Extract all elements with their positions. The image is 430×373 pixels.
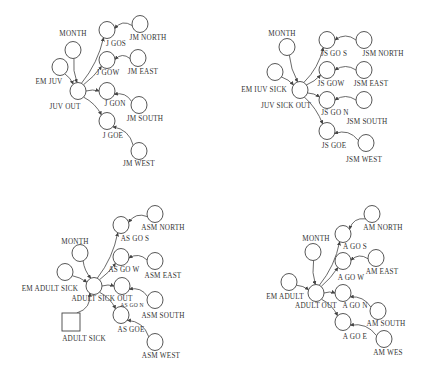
label-juvenile-north: JM NORTH bbox=[130, 34, 167, 42]
node-juvenile-sick-month bbox=[279, 39, 295, 56]
node-juvenile-month bbox=[65, 42, 81, 59]
edge-adult-sick-month-to-out bbox=[83, 261, 91, 278]
label-adult-sick-month: MONTH bbox=[61, 238, 88, 246]
label-juvenile-em: EM JUV bbox=[36, 78, 64, 86]
node-adult-sick-east bbox=[147, 253, 163, 270]
node-juvenile-sick-out bbox=[292, 82, 308, 99]
label-adult-sick-em: EM ADULT SICK bbox=[22, 285, 79, 293]
label-juvenile-sick-south: JSM SOUTH bbox=[347, 118, 388, 126]
node-adult-sick-stock bbox=[62, 313, 80, 331]
node-juvenile-sick-east bbox=[356, 62, 372, 79]
node-adult-sick-north bbox=[147, 206, 163, 223]
node-juvenile-gow bbox=[99, 52, 115, 69]
label-juvenile-month: MONTH bbox=[59, 30, 86, 38]
label-adult-gow: A GO W bbox=[338, 274, 365, 282]
edge-adult-sick-north-to-gos bbox=[129, 215, 148, 222]
label-juvenile-sick-em: EM IUV SICK bbox=[241, 86, 287, 94]
node-juvenile-sick-gon bbox=[319, 92, 335, 109]
node-juvenile-sick-west bbox=[358, 135, 374, 152]
node-juvenile-sick-goe bbox=[319, 123, 335, 140]
edge-juvenile-sick-em-to-out bbox=[281, 77, 293, 85]
node-adult-west bbox=[376, 331, 392, 348]
node-juvenile-sick-em bbox=[267, 64, 283, 81]
edge-juvenile-north-to-gos bbox=[115, 23, 132, 29]
label-adult-gos: A GO S bbox=[343, 243, 367, 251]
label-juvenile-goe: J GOE bbox=[103, 132, 124, 140]
label-adult-out: ADULT OUT bbox=[295, 302, 337, 310]
edge-juvenile-out-to-gon bbox=[86, 90, 99, 91]
node-juvenile-south bbox=[131, 97, 147, 114]
edge-juvenile-out-to-goe bbox=[84, 97, 102, 115]
node-juvenile-east bbox=[130, 50, 146, 67]
node-adult-sick-out bbox=[86, 278, 102, 295]
label-juvenile-sick-out: JUV SICK OUT bbox=[261, 102, 312, 110]
label-juvenile-sick-north: JSM NORTH bbox=[362, 50, 403, 58]
label-adult-sick-gow: AS GO W bbox=[108, 266, 139, 274]
node-juvenile-sick-gow bbox=[319, 62, 335, 79]
node-adult-em bbox=[281, 274, 297, 291]
causal-diagram-svg: MONTHEM JUVJUV OUTJ GOSJ GOWJ GONJ GOEJM… bbox=[0, 0, 430, 373]
edge-adult-month-to-out bbox=[313, 260, 316, 284]
node-juvenile-sick-gos bbox=[319, 32, 335, 49]
edge-adult-out-to-gon bbox=[324, 292, 335, 293]
label-adult-east: AM EAST bbox=[366, 268, 399, 276]
node-adult-sick-gow bbox=[113, 249, 129, 266]
node-adult-south bbox=[370, 303, 386, 320]
label-juvenile-sick-west: JSM WEST bbox=[346, 156, 382, 164]
label-juvenile-west: JM WEST bbox=[123, 160, 155, 168]
label-juvenile-gon: J GON bbox=[104, 100, 126, 108]
node-adult-sick-south bbox=[147, 292, 163, 309]
node-adult-sick-month bbox=[72, 245, 88, 262]
label-juvenile-sick-gos: JS GO S bbox=[321, 50, 347, 58]
node-adult-sick-gos bbox=[113, 217, 129, 234]
edge-juvenile-sick-south-to-gon bbox=[335, 97, 356, 101]
edge-juvenile-sick-out-to-gon bbox=[308, 93, 320, 97]
node-juvenile-goe bbox=[99, 113, 115, 130]
node-juvenile-gos bbox=[99, 22, 115, 39]
label-adult-month: MONTH bbox=[302, 235, 329, 243]
label-adult-west: AM WES bbox=[373, 349, 403, 357]
edge-adult-em-to-out bbox=[296, 285, 308, 290]
node-adult-gow bbox=[335, 253, 351, 270]
node-adult-out bbox=[308, 285, 324, 302]
label-adult-sick-east: ASM EAST bbox=[145, 272, 182, 280]
edge-juvenile-sick-west-to-goe bbox=[335, 132, 359, 141]
label-adult-south: AM SOUTH bbox=[367, 320, 406, 328]
node-adult-sick-em bbox=[57, 264, 73, 281]
node-adult-gos bbox=[335, 226, 351, 243]
label-adult-sick-north: ASM NORTH bbox=[141, 224, 185, 232]
edge-juvenile-sick-north-to-gos bbox=[335, 36, 356, 40]
label-adult-goe: A GO E bbox=[343, 333, 368, 341]
edge-adult-sick-east-to-gow bbox=[129, 255, 147, 260]
node-adult-goe bbox=[335, 314, 351, 331]
node-adult-sick-gon bbox=[114, 278, 130, 295]
node-juvenile-out bbox=[70, 83, 86, 100]
label-juvenile-gow: J GOW bbox=[97, 69, 120, 77]
label-juvenile-sick-gon: JS GO N bbox=[321, 109, 349, 117]
edge-juvenile-east-to-gow bbox=[115, 55, 130, 59]
label-juvenile-sick-goe: JS GOE bbox=[322, 142, 347, 150]
node-adult-sick-goe bbox=[113, 307, 129, 324]
node-juvenile-em bbox=[52, 59, 68, 76]
label-juvenile-sick-month: MONTH bbox=[268, 30, 295, 38]
label-adult-north: AM NORTH bbox=[363, 224, 402, 232]
edge-juvenile-month-to-out bbox=[74, 58, 77, 82]
diagram-canvas: MONTHEM JUVJUV OUTJ GOSJ GOWJ GONJ GOEJM… bbox=[0, 0, 430, 373]
label-adult-sick-stock: ADULT SICK bbox=[62, 335, 106, 343]
node-juvenile-sick-north bbox=[356, 32, 372, 49]
node-adult-sick-west bbox=[147, 334, 163, 351]
edge-adult-sick-em-to-out bbox=[72, 276, 87, 283]
node-juvenile-north bbox=[132, 16, 148, 33]
node-adult-north bbox=[364, 206, 380, 223]
node-juvenile-sick-south bbox=[356, 92, 372, 109]
edge-juvenile-sick-east-to-gow bbox=[335, 67, 356, 71]
label-adult-sick-gon: AS GO N bbox=[120, 302, 143, 308]
edge-adult-east-to-gow bbox=[351, 256, 368, 260]
label-adult-sick-goe: AS GOE bbox=[118, 326, 145, 334]
label-adult-sick-west: ASM WEST bbox=[142, 352, 181, 360]
edge-juvenile-sick-month-to-out bbox=[289, 55, 297, 82]
node-adult-gon bbox=[335, 285, 351, 302]
label-juvenile-out: JUV OUT bbox=[49, 103, 80, 111]
label-adult-sick-south: ASM SOUTH bbox=[141, 312, 184, 320]
label-adult-em: EM ADULT bbox=[266, 293, 304, 301]
